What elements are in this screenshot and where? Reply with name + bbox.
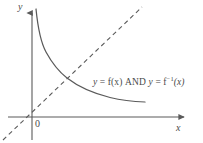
annotation-function-inverse-exponent: −1 <box>167 75 174 82</box>
annotation-equals-2: = <box>155 77 160 87</box>
curve-annotation: y = f(x) AND y = f−1(x) <box>93 78 185 88</box>
annotation-rhs-variable: y <box>149 77 153 87</box>
function-curve <box>36 9 145 102</box>
y-axis-label: y <box>18 2 22 12</box>
origin-label: 0 <box>35 119 40 129</box>
annotation-function-inverse-arg: (x) <box>174 77 185 87</box>
annotation-equals-1: = <box>100 77 105 87</box>
annotation-function-forward: f(x) <box>108 77 123 87</box>
figure-canvas <box>0 0 203 143</box>
identity-line-dashed <box>3 7 142 140</box>
x-axis-label: x <box>176 123 180 133</box>
annotation-conjunction: AND <box>125 77 146 87</box>
annotation-lhs-variable: y <box>93 77 97 87</box>
function-inverse-figure: y x 0 y = f(x) AND y = f−1(x) <box>0 0 203 143</box>
